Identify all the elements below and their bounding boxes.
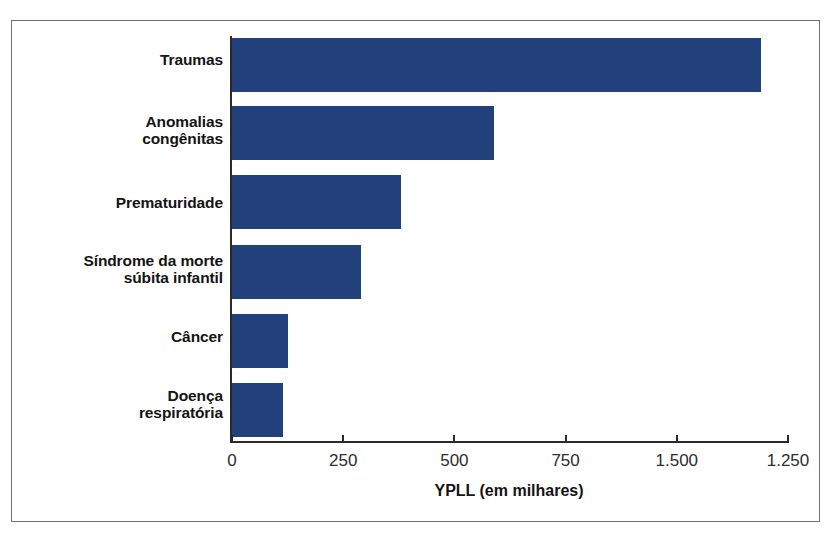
y-axis-line	[230, 36, 232, 442]
category-label-prematuridade: Prematuridade	[116, 194, 223, 211]
x-tick-label-3: 750	[551, 451, 579, 471]
x-tick-label-5: 1.250	[767, 451, 810, 471]
category-label-anomalias-congenitas: Anomalias congênitas	[142, 113, 223, 148]
bar-sindrome-morte-subita-infantil	[232, 245, 361, 299]
category-label-traumas: Traumas	[160, 51, 223, 68]
figure: Traumas Anomalias congênitas Prematurida…	[0, 0, 832, 538]
bar-anomalias-congenitas	[232, 106, 494, 160]
x-axis-title: YPLL (em milhares)	[231, 482, 787, 500]
bar-traumas	[232, 38, 761, 92]
x-tick-0	[231, 435, 233, 443]
x-axis-line	[230, 441, 787, 443]
bar-prematuridade	[232, 175, 401, 229]
x-tick-2	[453, 435, 455, 443]
plot-area: Traumas Anomalias congênitas Prematurida…	[0, 0, 832, 538]
bar-cancer	[232, 314, 288, 368]
x-tick-5	[787, 435, 789, 443]
x-tick-label-1: 250	[329, 451, 357, 471]
category-label-sindrome-morte-subita-infantil: Síndrome da morte súbita infantil	[83, 252, 223, 287]
x-tick-label-4: 1.500	[656, 451, 699, 471]
category-label-doenca-respiratoria: Doença respiratória	[139, 387, 223, 422]
x-tick-3	[565, 435, 567, 443]
x-tick-1	[342, 435, 344, 443]
x-tick-label-2: 500	[440, 451, 468, 471]
x-tick-4	[676, 435, 678, 443]
x-tick-label-0: 0	[227, 451, 236, 471]
bar-doenca-respiratoria	[232, 383, 283, 437]
category-label-cancer: Câncer	[171, 328, 223, 345]
